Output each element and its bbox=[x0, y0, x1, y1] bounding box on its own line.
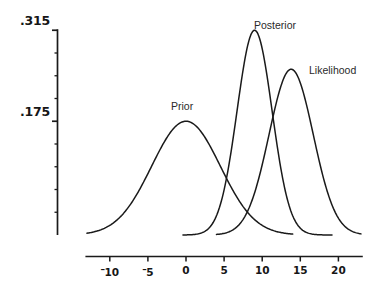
x-axis-tick-label: 5 bbox=[220, 264, 227, 276]
density-curve-posterior bbox=[183, 30, 332, 235]
x-axis-tick-value: 15 bbox=[293, 264, 308, 276]
chart-plot-area bbox=[0, 0, 381, 290]
x-axis-tick-label: –10 bbox=[100, 264, 119, 278]
x-axis-tick-label: 20 bbox=[331, 264, 346, 276]
y-axis-label-high: .315 bbox=[2, 13, 50, 28]
x-axis-tick-value: 10 bbox=[255, 264, 270, 276]
density-curve-likelihood bbox=[216, 69, 360, 234]
x-axis-tick-value: 5 bbox=[146, 266, 153, 278]
density-curves bbox=[87, 30, 361, 235]
x-axis-tick-value: 5 bbox=[220, 264, 227, 276]
curve-label-posterior: Posterior bbox=[254, 19, 296, 31]
curve-label-likelihood: Likelihood bbox=[309, 64, 356, 76]
density-curve-prior bbox=[87, 121, 293, 234]
y-axis-label-low: .175 bbox=[2, 104, 50, 119]
x-axis-tick-label: –5 bbox=[142, 264, 153, 278]
x-axis-tick-value: 0 bbox=[182, 264, 189, 276]
y-axis bbox=[52, 29, 58, 235]
x-axis-tick-value: 10 bbox=[104, 266, 119, 278]
curve-label-prior: Prior bbox=[171, 100, 193, 112]
x-axis bbox=[85, 257, 362, 262]
x-axis-tick-value: 20 bbox=[331, 264, 346, 276]
probability-density-chart: .315 .175 –10–505101520 Prior Posterior … bbox=[0, 0, 381, 290]
x-axis-tick-label: 10 bbox=[255, 264, 270, 276]
x-axis-tick-label: 0 bbox=[182, 264, 189, 276]
x-axis-tick-label: 15 bbox=[293, 264, 308, 276]
